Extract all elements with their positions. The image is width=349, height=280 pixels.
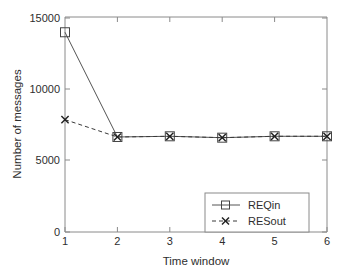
x-tick-label-2: 3 [167,235,173,247]
y-tick-label-1: 5000 [36,154,60,166]
series-line [65,32,327,137]
figure-canvas: 0 5000 10000 15000 1 2 3 4 5 6 [0,0,349,280]
x-tick-label-1: 2 [114,235,120,247]
series-resout [61,116,330,141]
y-axis-title: Number of messages [11,69,23,179]
series-reqin [61,28,332,142]
x-tick-label-0: 1 [62,235,68,247]
legend-label-resout: RESout [248,215,286,227]
series-line [65,120,327,138]
legend-label-reqin: REQin [248,199,280,211]
legend[interactable]: REQin RESout [205,193,309,232]
y-tick-label-2: 10000 [29,83,60,95]
series-layer [61,28,332,142]
x-axis-title: Time window [163,255,230,267]
x-tick-label-4: 5 [272,235,278,247]
y-tick-label-0: 0 [54,226,60,238]
x-tick-label-3: 4 [219,235,225,247]
line-chart: 0 5000 10000 15000 1 2 3 4 5 6 [0,0,349,280]
y-tick-label-3: 15000 [29,12,60,24]
x-tick-labels: 1 2 3 4 5 6 [62,235,330,247]
x-tick-label-5: 6 [324,235,330,247]
y-tick-labels: 0 5000 10000 15000 [29,12,60,238]
